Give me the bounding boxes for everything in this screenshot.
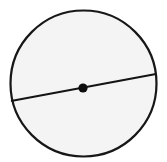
circle-diagram-figure: [0, 0, 167, 162]
center-dot: [78, 83, 87, 92]
diagram-canvas: [0, 0, 167, 162]
